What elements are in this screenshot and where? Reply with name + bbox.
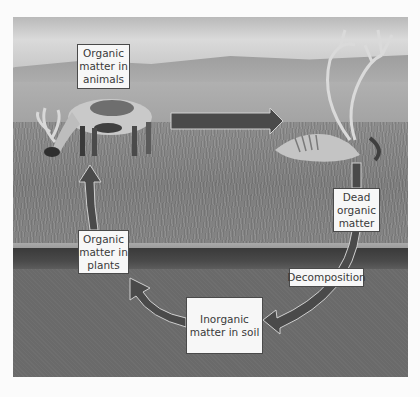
arrow-animals-to-dead [171, 108, 283, 134]
node-label-line: matter [337, 217, 376, 230]
node-organic-matter-in-animals: Organic matter in animals [77, 44, 130, 89]
node-inorganic-matter-in-soil: Inorganic matter in soil [186, 297, 263, 354]
arrow-plants-to-animals [79, 165, 101, 230]
dead-caribou-illustration [275, 30, 392, 162]
node-label-line: Organic [79, 233, 128, 246]
arrow-soil-to-plants [130, 278, 186, 327]
node-label-line: Dead [337, 191, 376, 204]
process-label-decomposition: Decomposition [289, 268, 364, 287]
node-label-line: animals [79, 73, 128, 86]
node-label-line: matter in soil [190, 326, 260, 339]
node-label-line: organic [337, 204, 376, 217]
node-label-line: Inorganic [190, 313, 260, 326]
node-label-line: matter in [79, 60, 128, 73]
process-label-text: Decomposition [287, 271, 366, 284]
node-label-line: matter in [79, 246, 128, 259]
grazing-caribou-illustration [38, 99, 153, 157]
node-organic-matter-in-plants: Organic matter in plants [78, 230, 129, 274]
node-label-line: Organic [79, 47, 128, 60]
node-dead-organic-matter: Dead organic matter [333, 188, 380, 232]
node-label-line: plants [79, 259, 128, 272]
